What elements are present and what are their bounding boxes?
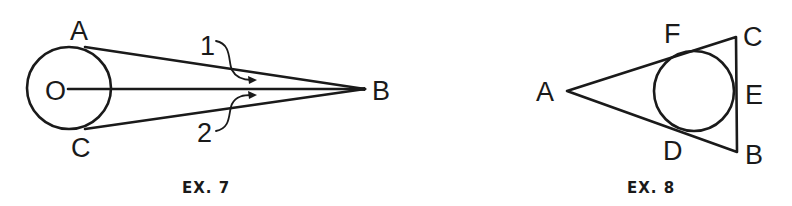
caption-ex8: EX. 8 (627, 179, 675, 197)
label-c: C (743, 22, 763, 52)
inscribed-circle (654, 51, 734, 131)
caption-ex7: EX. 7 (182, 179, 230, 197)
label-angle-1: 1 (200, 31, 215, 61)
label-b: B (745, 140, 763, 170)
label-f: F (664, 19, 681, 49)
label-o: O (45, 76, 66, 106)
tangent-cb (85, 89, 365, 129)
label-a: A (536, 77, 554, 107)
label-b: B (372, 76, 390, 106)
figure-ex8: A F C E D B EX. 8 (536, 19, 763, 197)
label-a: A (70, 16, 88, 46)
label-e: E (745, 80, 763, 110)
diagram-canvas: A O C B 1 2 EX. 7 A F C E D B EX. 8 (0, 0, 792, 206)
tangent-ab (85, 47, 365, 89)
angle-2-arrow (216, 95, 252, 131)
arrowhead-1-icon (248, 76, 257, 84)
label-d: D (663, 136, 683, 166)
label-c: C (71, 133, 91, 163)
label-angle-2: 2 (197, 118, 212, 148)
arrowhead-2-icon (248, 91, 257, 99)
angle-1-arrow (216, 41, 252, 80)
figure-ex7: A O C B 1 2 EX. 7 (27, 16, 390, 197)
